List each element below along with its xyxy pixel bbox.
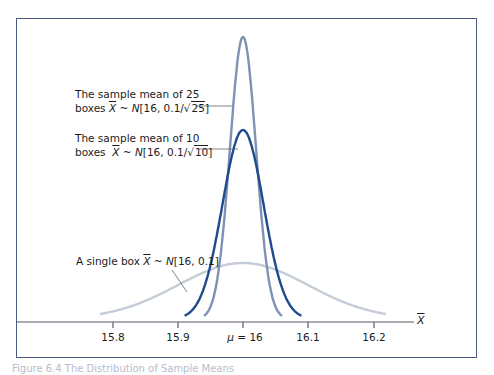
x-tick-label-mu: μ = 16	[227, 331, 263, 343]
figure-caption: Figure 6.4 The Distribution of Sample Me…	[12, 363, 234, 374]
dist-args: [16, 0.1/	[139, 102, 183, 114]
x-tick-label: 15.8	[101, 331, 124, 343]
annotation-mean-25: The sample mean of 25 boxes X ~ N[16, 0.…	[75, 87, 209, 115]
tilde-symbol: ~	[116, 102, 131, 114]
x-tick-label: 16.2	[362, 331, 385, 343]
dist-symbol: N	[166, 255, 174, 267]
ann-prefix: A single box	[76, 255, 143, 267]
sqrt-arg: 10	[194, 145, 208, 158]
x-axis-ticks	[113, 322, 374, 328]
annotation-25-line1: The sample mean of 25	[75, 87, 209, 101]
dist-symbol: N	[135, 146, 143, 158]
dist-close: ]	[205, 102, 209, 114]
x-axis-label: X	[417, 314, 425, 328]
x-tick-label: 15.9	[166, 331, 189, 343]
curve-single-box	[100, 263, 386, 314]
tilde-symbol: ~	[150, 255, 165, 267]
dist-close: ]	[208, 146, 212, 158]
dist-args: [16, 0.1]	[174, 255, 219, 267]
tilde-symbol: ~	[119, 146, 134, 158]
x-tick-label: 16.1	[296, 331, 319, 343]
annotation-10-line2: boxes X ~ N[16, 0.1/√10]	[75, 145, 212, 159]
mu-value: = 16	[234, 331, 263, 343]
mu-symbol: μ	[227, 331, 234, 343]
sqrt-arg: 25	[191, 101, 205, 114]
annotation-mean-10: The sample mean of 10 boxes X ~ N[16, 0.…	[75, 131, 212, 159]
ann-prefix: boxes	[75, 102, 109, 114]
ann-prefix: boxes	[75, 146, 112, 158]
annotation-10-line1: The sample mean of 10	[75, 131, 212, 145]
annotation-single-box: A single box X ~ N[16, 0.1]	[76, 254, 219, 268]
annotation-25-line2: boxes X ~ N[16, 0.1/√25]	[75, 101, 209, 115]
curve-mean-25	[204, 37, 282, 316]
dist-args: [16, 0.1/	[143, 146, 187, 158]
